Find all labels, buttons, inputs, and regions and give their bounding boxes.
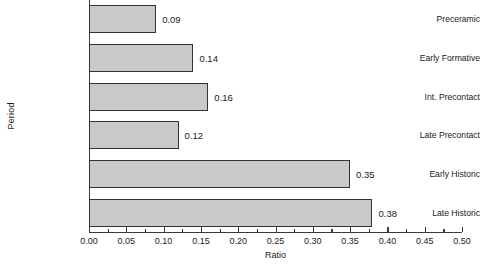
- x-tick-minor: [145, 229, 146, 232]
- y-axis-line: [89, 0, 90, 232]
- x-tick-minor: [294, 229, 295, 232]
- x-tick-minor: [220, 229, 221, 232]
- bar-row: 0.38: [89, 199, 462, 227]
- x-tick-minor: [108, 229, 109, 232]
- bar: [89, 160, 350, 188]
- x-tick-major: [313, 227, 314, 232]
- y-axis-title: Period: [0, 0, 22, 232]
- bar-row: 0.09: [89, 5, 462, 33]
- x-tick-label: 0.00: [80, 236, 98, 246]
- x-tick-label: 0.15: [192, 236, 210, 246]
- x-tick-major: [164, 227, 165, 232]
- x-tick-label: 0.40: [379, 236, 397, 246]
- bar-value-label: 0.16: [214, 91, 233, 102]
- bar-value-label: 0.14: [199, 53, 218, 64]
- x-tick-label: 0.50: [453, 236, 471, 246]
- x-axis-title: Ratio: [89, 250, 462, 260]
- x-tick-major: [238, 227, 239, 232]
- bar-value-label: 0.09: [162, 14, 181, 25]
- x-tick-major: [276, 227, 277, 232]
- x-tick-major: [387, 227, 388, 232]
- x-tick-major: [350, 227, 351, 232]
- x-tick-major: [425, 227, 426, 232]
- bar-value-label: 0.12: [185, 130, 204, 141]
- bar-chart: Period PreceramicEarly FormativeInt. Pre…: [0, 0, 480, 271]
- bar-value-label: 0.35: [356, 169, 375, 180]
- x-tick-major: [89, 227, 90, 232]
- y-axis-title-label: Period: [6, 102, 16, 129]
- x-tick-label: 0.10: [155, 236, 173, 246]
- bar: [89, 5, 156, 33]
- x-tick-minor: [443, 229, 444, 232]
- x-tick-label: 0.20: [229, 236, 247, 246]
- bar-row: 0.14: [89, 44, 462, 72]
- bar-value-label: 0.38: [378, 207, 397, 218]
- x-tick-label: 0.05: [118, 236, 136, 246]
- x-tick-label: 0.35: [341, 236, 359, 246]
- bar-row: 0.12: [89, 121, 462, 149]
- x-tick-label: 0.30: [304, 236, 322, 246]
- bar-row: 0.16: [89, 83, 462, 111]
- plot-area: 0.090.140.160.120.350.38: [89, 0, 462, 232]
- x-tick-major: [126, 227, 127, 232]
- bar-row: 0.35: [89, 160, 462, 188]
- bar: [89, 83, 208, 111]
- x-tick-major: [462, 227, 463, 232]
- x-tick-minor: [331, 229, 332, 232]
- bar: [89, 199, 372, 227]
- x-tick-minor: [257, 229, 258, 232]
- x-axis-line: [89, 232, 462, 233]
- x-tick-label: 0.25: [267, 236, 285, 246]
- bar: [89, 121, 179, 149]
- x-tick-label: 0.45: [416, 236, 434, 246]
- x-tick-minor: [406, 229, 407, 232]
- x-tick-minor: [369, 229, 370, 232]
- bar: [89, 44, 193, 72]
- x-tick-major: [201, 227, 202, 232]
- x-tick-minor: [182, 229, 183, 232]
